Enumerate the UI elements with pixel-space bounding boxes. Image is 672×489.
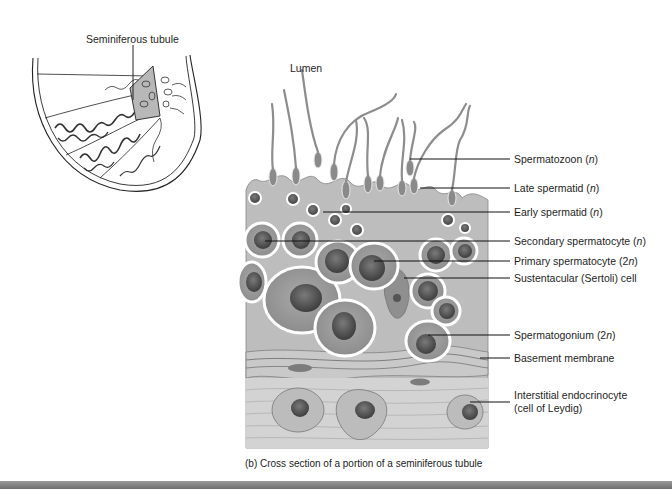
callout-basement-membrane: Basement membrane <box>514 352 614 364</box>
bottom-divider <box>0 481 672 489</box>
callout-spermatogonium: Spermatogonium (2n) <box>514 329 616 341</box>
callout-spermatozoon: Spermatozoon (n) <box>514 153 598 165</box>
callout-primary-spermatocyte: Primary spermatocyte (2n) <box>514 255 638 267</box>
figure-caption: (b) Cross section of a portion of a semi… <box>245 458 482 469</box>
callout-interstitial-endocrinocyte: Interstitial endocrinocyte <box>514 389 627 401</box>
callout-early-spermatid: Early spermatid (n) <box>514 206 603 218</box>
callout-cell-of-leydig: (cell of Leydig) <box>514 402 582 414</box>
callout-secondary-spermatocyte: Secondary spermatocyte (n) <box>514 235 646 247</box>
callout-sertoli-cell: Sustentacular (Sertoli) cell <box>514 272 637 284</box>
callout-late-spermatid: Late spermatid (n) <box>514 182 599 194</box>
lumen-label: Lumen <box>290 62 322 74</box>
